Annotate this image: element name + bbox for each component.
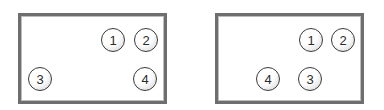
right-node-4: 4 [256,67,280,91]
right-node-1: 1 [299,28,323,52]
left-node-3: 3 [28,67,52,91]
right-node-3: 3 [298,67,322,91]
right-panel [215,13,364,104]
left-node-2: 2 [134,28,158,52]
left-node-4: 4 [133,67,157,91]
right-node-2: 2 [331,28,355,52]
left-node-1: 1 [101,28,125,52]
